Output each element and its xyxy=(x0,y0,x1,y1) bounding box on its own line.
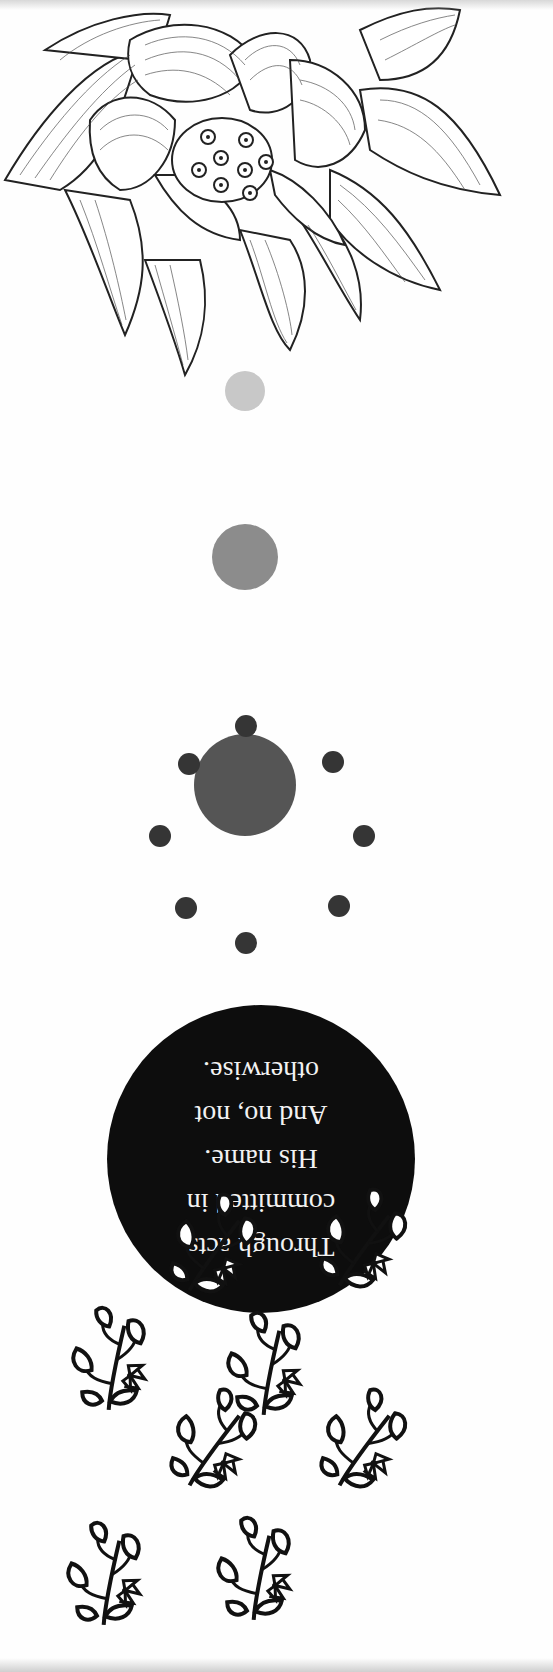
book-page: Through acts committed in His name. And … xyxy=(0,0,553,1672)
hanging-vine-pattern xyxy=(0,0,553,1672)
page-edge-bottom xyxy=(0,1658,553,1672)
page-edge-top xyxy=(0,0,553,10)
